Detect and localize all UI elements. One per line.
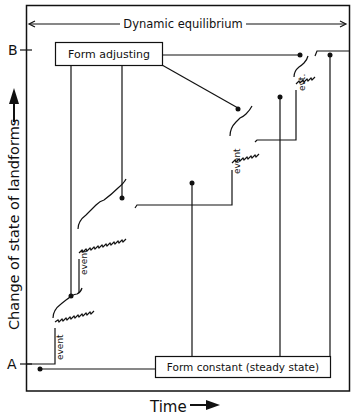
dot-constant-2 xyxy=(278,95,283,100)
adjust-leader-3 xyxy=(162,65,238,108)
dot-adjust-1 xyxy=(69,294,74,299)
dot-adjust-3 xyxy=(236,107,241,112)
event-label-2: event xyxy=(79,249,89,275)
dot-a xyxy=(38,367,43,372)
dynamic-equilibrium-label: Dynamic equilibrium xyxy=(123,17,242,31)
adjust-brace-3 xyxy=(230,106,252,136)
y-axis-arrowhead xyxy=(9,88,19,104)
state-staircase xyxy=(26,51,349,364)
form-adjusting-label: Form adjusting xyxy=(68,48,150,61)
event-label-4: evt. xyxy=(297,74,307,91)
adjust-brace-2 xyxy=(78,179,126,229)
landform-equilibrium-diagram: Dynamic equilibrium Form adjusting Form … xyxy=(0,0,353,417)
adjust-brace-1 xyxy=(53,288,82,318)
event-label-3: event xyxy=(232,148,242,174)
y-axis-label: Change of state of landforms xyxy=(6,119,22,330)
level-b-label: B xyxy=(8,42,18,58)
x-axis-label: Time xyxy=(149,398,187,416)
dot-constant-3 xyxy=(328,53,333,58)
dot-adjust-2 xyxy=(120,196,125,201)
dot-constant-1 xyxy=(190,181,195,186)
x-axis-arrowhead xyxy=(206,400,220,410)
dot-adjust-4 xyxy=(298,53,303,58)
event-label-1: event xyxy=(55,334,65,360)
level-a-label: A xyxy=(7,356,17,372)
form-constant-label: Form constant (steady state) xyxy=(167,361,319,373)
